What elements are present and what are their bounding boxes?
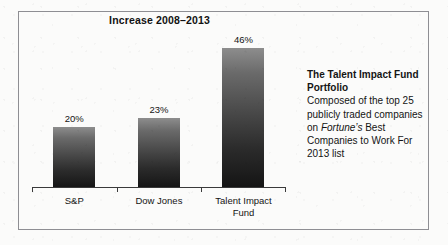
plot-area: 20% 23% 46% bbox=[32, 30, 286, 188]
bar-group-0: 20% bbox=[32, 30, 117, 188]
x-axis-tick-3 bbox=[285, 187, 286, 192]
bar-value-label-0: 20% bbox=[65, 113, 84, 124]
bar-group-2: 46% bbox=[201, 30, 286, 188]
x-axis-label-2-line-0: Talent Impact bbox=[194, 195, 294, 207]
side-annotation: The Talent Impact Fund Portfolio Compose… bbox=[307, 68, 427, 160]
x-axis-tick-1 bbox=[117, 187, 118, 192]
bar-0[interactable] bbox=[53, 127, 95, 188]
x-axis-tick-0 bbox=[32, 187, 33, 192]
chart-title: Increase 2008–2013 bbox=[32, 14, 287, 26]
bar-value-label-1: 23% bbox=[149, 104, 168, 115]
x-axis-line bbox=[32, 187, 286, 188]
side-annotation-italic-term: Fortune’s bbox=[321, 122, 363, 133]
x-axis-label-2: Talent Impact Fund bbox=[194, 195, 294, 218]
bar-group-1: 23% bbox=[117, 30, 202, 188]
side-annotation-heading: The Talent Impact Fund Portfolio bbox=[307, 68, 427, 94]
x-axis-label-2-line-1: Fund bbox=[194, 207, 294, 219]
bar-value-label-2: 46% bbox=[234, 34, 253, 45]
bar-1[interactable] bbox=[138, 118, 180, 188]
chart-screenshot: Increase 2008–2013 20% 23% 46% S&P Dow J… bbox=[0, 0, 448, 245]
bar-2[interactable] bbox=[222, 48, 264, 188]
x-axis-tick-2 bbox=[201, 187, 202, 192]
side-annotation-body: Composed of the top 25 publicly traded c… bbox=[307, 94, 427, 160]
